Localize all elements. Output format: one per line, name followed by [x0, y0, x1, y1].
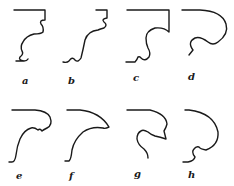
- label-g: g: [134, 169, 141, 179]
- profile-e: [9, 110, 51, 162]
- profile-c: [126, 10, 169, 62]
- label-b: b: [68, 76, 75, 86]
- label-c: c: [133, 73, 139, 83]
- profile-a: [14, 10, 45, 61]
- label-a: a: [22, 76, 28, 86]
- profiles-figure: [0, 0, 234, 186]
- label-f: f: [69, 171, 73, 181]
- profile-d: [182, 10, 227, 55]
- profile-h: [183, 110, 218, 162]
- profile-b: [63, 10, 107, 62]
- label-d: d: [188, 72, 195, 82]
- label-e: e: [16, 171, 22, 181]
- label-h: h: [188, 170, 195, 180]
- profile-g: [127, 110, 167, 158]
- profile-f: [65, 110, 109, 161]
